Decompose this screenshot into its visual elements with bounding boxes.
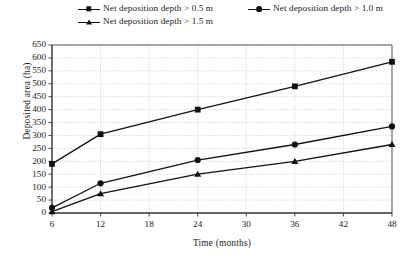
data-point-marker-circle — [292, 141, 298, 147]
y-tick-label: 0 — [18, 208, 46, 217]
data-point-marker-square — [98, 131, 104, 137]
data-point-marker-square — [389, 59, 395, 65]
x-tick-label: 48 — [377, 220, 406, 229]
data-point-marker-square — [292, 83, 298, 89]
x-tick-label: 18 — [134, 220, 164, 229]
data-point-marker-circle — [389, 123, 395, 129]
x-tick-label: 24 — [183, 220, 213, 229]
x-tick-label: 30 — [231, 220, 261, 229]
chart-legend: Net deposition depth > 0.5 m Net deposit… — [0, 0, 406, 34]
data-point-marker-circle — [195, 157, 201, 163]
x-tick-label: 12 — [86, 220, 116, 229]
legend-item-depth-1-0: Net deposition depth > 1.0 m — [248, 4, 383, 14]
y-tick-label: 100 — [18, 183, 46, 192]
series-line-2 — [52, 145, 392, 212]
data-point-marker-square — [49, 161, 55, 167]
chart-container: Net deposition depth > 0.5 m Net deposit… — [0, 0, 406, 258]
square-marker-icon — [78, 4, 100, 14]
legend-label: Net deposition depth > 1.0 m — [273, 4, 383, 13]
x-tick-label: 36 — [280, 220, 310, 229]
triangle-marker-icon — [78, 17, 100, 27]
data-point-marker-square — [195, 107, 201, 113]
y-axis-title: Deposited area (ha) — [22, 26, 32, 176]
x-axis-title: Time (months) — [52, 238, 392, 248]
legend-item-depth-0-5: Net deposition depth > 0.5 m — [78, 4, 213, 14]
data-point-marker-circle — [97, 180, 103, 186]
x-tick-label: 42 — [328, 220, 358, 229]
legend-label: Net deposition depth > 0.5 m — [103, 4, 213, 13]
circle-marker-icon — [248, 4, 270, 14]
legend-item-depth-1-5: Net deposition depth > 1.5 m — [78, 17, 213, 27]
data-point-marker-triangle — [389, 141, 396, 147]
x-tick-label: 6 — [37, 220, 67, 229]
y-tick-label: 50 — [18, 195, 46, 204]
legend-label: Net deposition depth > 1.5 m — [103, 17, 213, 26]
